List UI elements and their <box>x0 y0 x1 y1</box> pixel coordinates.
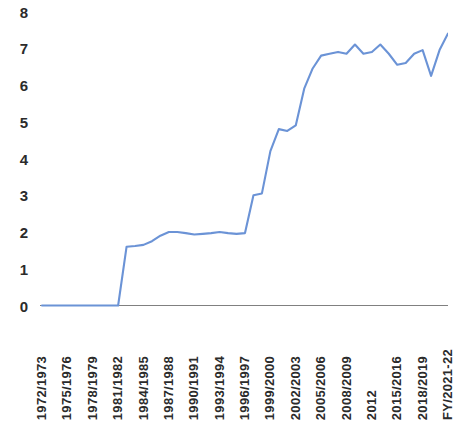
y-tick-label: 1 <box>20 261 28 276</box>
x-tick-label: 1996/1997 <box>238 356 251 420</box>
x-tick-label: 2008/2009 <box>340 356 353 420</box>
x-tick-label: 1972/1973 <box>35 356 48 420</box>
y-tick-label: 7 <box>20 41 28 56</box>
x-tick-label: 1981/1982 <box>111 356 124 420</box>
x-tick-label: 2018/2019 <box>416 356 429 420</box>
x-tick-label: 1984/1985 <box>137 356 150 420</box>
x-tick-label: 2005/2006 <box>314 356 327 420</box>
x-tick-label: 2012 <box>365 390 378 420</box>
x-tick-label: 1999/2000 <box>263 356 276 420</box>
y-tick-label: 2 <box>20 225 28 240</box>
x-tick-label: 1987/1988 <box>162 356 175 420</box>
x-axis: 1972/19731975/19761978/19791981/19821984… <box>40 316 448 422</box>
y-tick-label: 0 <box>20 298 28 313</box>
y-axis: 012345678 <box>0 0 34 316</box>
plot-area <box>40 0 448 316</box>
y-tick-label: 5 <box>20 114 28 129</box>
x-tick-label: 1993/1994 <box>213 356 226 420</box>
plot-svg <box>40 0 448 316</box>
y-tick-label: 8 <box>20 4 28 19</box>
x-tick-label: 2002/2003 <box>289 356 302 420</box>
y-tick-label: 6 <box>20 78 28 93</box>
y-tick-label: 3 <box>20 188 28 203</box>
x-tick-label: 1978/1979 <box>86 356 99 420</box>
x-tick-label: 1975/1976 <box>60 356 73 420</box>
data-series-line <box>42 34 448 306</box>
x-tick-label: FY/2021-22 <box>441 349 454 420</box>
y-tick-label: 4 <box>20 151 28 166</box>
x-tick-label: 2015/2016 <box>390 356 403 420</box>
x-tick-label: 1990/1991 <box>187 356 200 420</box>
